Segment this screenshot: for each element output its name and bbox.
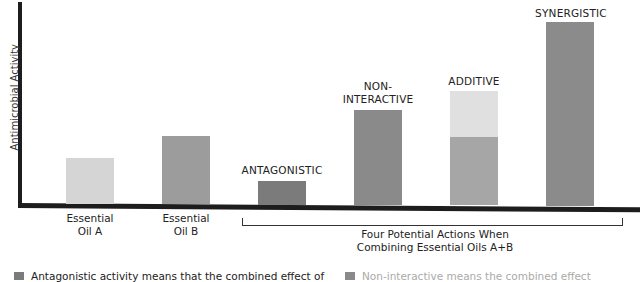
bar-label-additive: ADDITIVE [434,75,514,88]
group-bracket-label: Four Potential Actions When Combining Es… [330,228,540,254]
bar-label-non-interactive: NON- INTERACTIVE [338,80,418,106]
bar-synergistic [546,22,594,206]
bracket-label-line: Combining Essential Oils A+B [330,241,540,254]
category-label-line: Essential [141,212,231,225]
legend-text: Antagonistic activity means that the com… [31,270,324,282]
legend-item-non-interactive: Non-interactive means the combined effec… [345,270,591,282]
bar-label-line: NON- [338,80,418,93]
bracket-label-line: Four Potential Actions When [330,228,540,241]
bar-label-antagonistic: ANTAGONISTIC [236,164,328,177]
bar-essential-oil-b [162,136,210,204]
bar-essential-oil-a [66,158,114,204]
legend-item-antagonistic: Antagonistic activity means that the com… [14,270,324,282]
legend-swatch [345,272,355,280]
bar-additive-bottom [450,137,498,205]
bar-additive-top [450,91,498,138]
category-label-line: Oil A [45,225,135,238]
bar-antagonistic [258,181,306,205]
bar-label-line: INTERACTIVE [338,93,418,106]
y-axis-label: Antimicrobial Activity [9,51,20,151]
category-label-line: Oil B [141,225,231,238]
bar-non-interactive [354,110,402,205]
bar-label-synergistic: SYNERGISTIC [525,7,617,20]
legend-text: Non-interactive means the combined effec… [362,270,591,282]
category-label-line: Essential [45,212,135,225]
legend-swatch [14,272,24,280]
category-label-oil-b: Essential Oil B [141,212,231,238]
group-bracket [242,218,623,226]
category-label-oil-a: Essential Oil A [45,212,135,238]
